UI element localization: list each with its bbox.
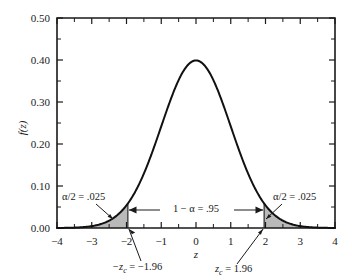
x-tick-label-2: 2 [263, 235, 269, 247]
x-tick-label-4: 4 [332, 235, 338, 247]
y-axis-title: f(z) [16, 120, 29, 135]
zc-left-value: = −1.96 [127, 261, 162, 272]
zc-left-symbol: −z [112, 261, 123, 272]
y-tick-label-020: 0.20 [31, 138, 51, 150]
annotation-confidence: 1 − α = .95 [173, 203, 219, 214]
y-tick-label-040: 0.40 [31, 54, 51, 66]
x-tick-label-0: 0 [193, 235, 199, 247]
y-tick-label-030: 0.30 [31, 96, 51, 108]
chart-svg: 0.50 0.40 0.30 0.20 0.10 0.00 −4 −3 −2 −… [0, 0, 352, 280]
annotation-alpha-left: α/2 = .025 [62, 191, 105, 202]
y-tick-label-000: 0.00 [31, 222, 51, 234]
y-tick-label-050: 0.50 [31, 12, 51, 24]
x-tick-label-neg1: −1 [155, 235, 167, 247]
x-axis-title: z [193, 248, 199, 260]
zc-right-value: = 1.96 [223, 263, 253, 274]
x-tick-label-1: 1 [228, 235, 234, 247]
normal-distribution-figure: 0.50 0.40 0.30 0.20 0.10 0.00 −4 −3 −2 −… [0, 0, 352, 280]
annotation-alpha-right: α/2 = .025 [273, 191, 316, 202]
x-tick-label-3: 3 [298, 235, 304, 247]
x-tick-label-neg4: −4 [51, 235, 63, 247]
x-tick-label-neg3: −3 [86, 235, 98, 247]
y-tick-label-010: 0.10 [31, 180, 51, 192]
x-tick-label-neg2: −2 [121, 235, 133, 247]
